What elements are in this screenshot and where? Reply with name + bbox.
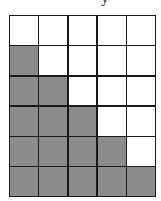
empty-cell: [69, 16, 97, 45]
empty-cell: [39, 16, 67, 45]
shaded-cell: [10, 107, 38, 136]
empty-cell: [69, 46, 97, 75]
shaded-cell: [69, 107, 97, 136]
shaded-cell: [10, 137, 38, 166]
shaded-cell: [39, 167, 67, 196]
empty-cell: [69, 77, 97, 106]
empty-cell: [127, 77, 155, 106]
shaded-cell: [69, 167, 97, 196]
empty-cell: [127, 46, 155, 75]
empty-cell: [10, 16, 38, 45]
empty-cell: [127, 137, 155, 166]
shaded-cell: [39, 107, 67, 136]
shaded-cell: [10, 167, 38, 196]
empty-cell: [98, 46, 126, 75]
shaded-cell: [127, 167, 155, 196]
shaded-cell: [98, 167, 126, 196]
shaded-cell: [69, 137, 97, 166]
empty-cell: [98, 77, 126, 106]
empty-cell: [98, 107, 126, 136]
shaded-cell: [39, 77, 67, 106]
shaded-cell: [98, 137, 126, 166]
staircase-grid: [9, 15, 156, 197]
empty-cell: [127, 107, 155, 136]
partial-letter-glyph: y: [101, 0, 109, 5]
empty-cell: [127, 16, 155, 45]
shaded-cell: [10, 46, 38, 75]
empty-cell: [98, 16, 126, 45]
shaded-cell: [39, 137, 67, 166]
empty-cell: [39, 46, 67, 75]
shaded-cell: [10, 77, 38, 106]
